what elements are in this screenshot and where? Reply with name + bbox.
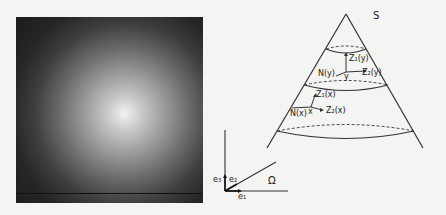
z1-x-label: Z₁(x)	[316, 90, 336, 99]
e3-label: e₃	[213, 175, 221, 184]
e1-label: e₁	[238, 192, 246, 201]
omega-label: Ω	[268, 175, 276, 186]
normal-x-label: N(x)	[290, 109, 307, 118]
cone-diagram: S Z₁(y) N(y) y Z₂(y) Z₁(x) N(x) x Z₂(x) …	[0, 0, 446, 215]
point-y-label: y	[344, 72, 349, 81]
point-x-label: x	[308, 107, 313, 116]
z2-y-label: Z₂(y)	[362, 68, 382, 77]
surface-label: S	[373, 10, 379, 21]
z1-y-label: Z₁(y)	[349, 54, 369, 63]
coordinate-axes: e₁ e₂ e₃ Ω	[213, 130, 288, 201]
normal-y-label: N(y)	[318, 69, 335, 78]
z2-x-label: Z₂(x)	[326, 106, 346, 115]
e2-label: e₂	[229, 175, 237, 184]
